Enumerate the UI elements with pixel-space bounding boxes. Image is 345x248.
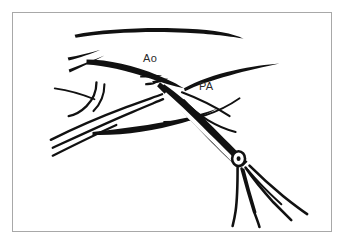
label-aorta: Ao [143,53,157,64]
scissors-hinge-screw-center [237,156,241,161]
left-vessel-stroke-4 [55,88,95,99]
left-vessel-stroke-3 [53,125,117,156]
figure-frame: Ao PA [12,12,332,232]
scissors-shank-1 [233,168,238,226]
figure-screenshot: Ao PA [0,0,345,248]
vessel-hook-loop [69,82,97,116]
aorta-lower-contour [87,60,184,89]
surgical-illustration [13,13,331,231]
dissection-tick-mark-3 [145,83,156,86]
left-vessel-stroke-2 [53,99,163,148]
upper-left-short-stroke-top [68,50,101,61]
scissors-shank-inner-2 [248,170,282,205]
label-pulmonary-artery: PA [199,81,213,92]
aortic-arch-upper-contour [75,28,244,39]
